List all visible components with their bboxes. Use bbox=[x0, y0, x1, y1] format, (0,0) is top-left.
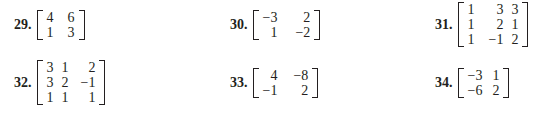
matrix-cell: 3 bbox=[58, 25, 79, 40]
matrix-cell: 1 bbox=[58, 90, 73, 105]
matrix-cell: −2 bbox=[281, 25, 314, 40]
problem-number: 30. bbox=[230, 17, 248, 33]
matrix-cell: 1 bbox=[43, 90, 58, 105]
matrix-cell: −1 bbox=[73, 75, 100, 90]
problem-33: 33. 4−8 −12 bbox=[230, 68, 318, 98]
matrix-cell: 2 bbox=[58, 75, 73, 90]
matrix-cell: 3 bbox=[479, 2, 508, 17]
matrix-cell: 2 bbox=[507, 32, 522, 47]
matrix-cell: −1 bbox=[259, 83, 282, 98]
matrix-cell: 1 bbox=[464, 32, 479, 47]
matrix-cell: 3 bbox=[43, 75, 58, 90]
matrix-cell: −3 bbox=[464, 68, 487, 83]
problem-number: 34. bbox=[435, 75, 453, 91]
matrix-cell: 2 bbox=[73, 60, 100, 75]
matrix-cell: −1 bbox=[479, 32, 508, 47]
matrix-cell: 1 bbox=[43, 25, 58, 40]
problem-number: 32. bbox=[14, 75, 32, 91]
matrix: −31 −62 bbox=[458, 68, 510, 98]
matrix-cell: 1 bbox=[58, 60, 73, 75]
problem-number: 31. bbox=[435, 17, 453, 33]
matrix-cell: 1 bbox=[486, 68, 503, 83]
problem-34: 34. −31 −62 bbox=[435, 68, 509, 98]
matrix: 4−8 −12 bbox=[253, 68, 319, 98]
matrix-cell: 1 bbox=[507, 17, 522, 32]
matrix-cell: 2 bbox=[479, 17, 508, 32]
matrix-cell: 4 bbox=[43, 10, 58, 25]
matrix: 133 121 1−12 bbox=[458, 2, 529, 47]
matrix: 312 32−1 111 bbox=[37, 60, 106, 105]
matrix-cell: 6 bbox=[58, 10, 79, 25]
matrix: 46 13 bbox=[37, 10, 85, 40]
matrix-cell: 1 bbox=[464, 17, 479, 32]
matrix-cell: 1 bbox=[464, 2, 479, 17]
matrix: −32 1−2 bbox=[253, 10, 321, 40]
matrix-cell: −8 bbox=[281, 68, 312, 83]
matrix-cell: 2 bbox=[281, 10, 314, 25]
problem-number: 29. bbox=[14, 17, 32, 33]
problem-32: 32. 312 32−1 111 bbox=[14, 60, 105, 105]
problem-30: 30. −32 1−2 bbox=[230, 10, 320, 40]
problem-31: 31. 133 121 1−12 bbox=[435, 2, 528, 47]
matrix-cell: 1 bbox=[73, 90, 100, 105]
matrix-cell: 3 bbox=[43, 60, 58, 75]
matrix-cell: 2 bbox=[486, 83, 503, 98]
matrix-cell: 3 bbox=[507, 2, 522, 17]
matrix-cell: 1 bbox=[259, 25, 282, 40]
matrix-cell: −6 bbox=[464, 83, 487, 98]
problem-number: 33. bbox=[230, 75, 248, 91]
matrix-cell: −3 bbox=[259, 10, 282, 25]
matrix-cell: 2 bbox=[281, 83, 312, 98]
problem-29: 29. 46 13 bbox=[14, 10, 85, 40]
matrix-cell: 4 bbox=[259, 68, 282, 83]
